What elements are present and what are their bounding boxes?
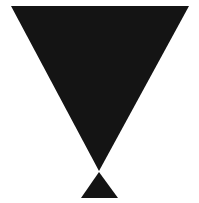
small-upward-triangle-shape (81, 172, 118, 198)
large-inverted-triangle-shape (11, 6, 189, 171)
triangle-graphic-canvas (0, 0, 199, 203)
triangle-graphic (0, 0, 199, 203)
